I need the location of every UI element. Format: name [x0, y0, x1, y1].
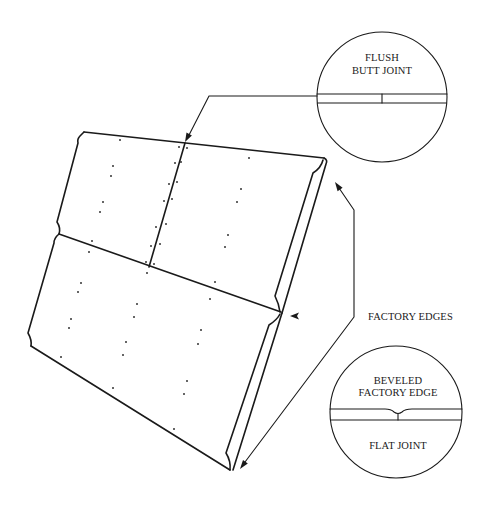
horizontal-panel-joint [59, 234, 281, 312]
nail-mark [186, 380, 188, 382]
nail-mark [200, 329, 202, 331]
factory-edges-label: FACTORY EDGES [368, 311, 453, 322]
nail-mark [165, 223, 167, 225]
nail-mark [240, 188, 242, 190]
lower-panel-left-edge [28, 234, 59, 346]
upper-panel-top-edge [84, 132, 324, 158]
nail-mark [180, 161, 182, 163]
nail-mark [91, 240, 93, 242]
nail-mark [163, 200, 165, 202]
flush-butt-seam [149, 143, 185, 267]
nail-mark [122, 354, 124, 356]
nail-mark [88, 251, 90, 253]
nail-mark [80, 282, 82, 284]
arrowhead-icon [335, 182, 343, 191]
nail-mark [178, 146, 180, 148]
nail-mark [136, 303, 138, 305]
nail-marks [60, 139, 250, 430]
nail-mark [209, 298, 211, 300]
arrowhead-left-icon [290, 313, 299, 320]
nail-mark [102, 201, 104, 203]
nail-mark [110, 175, 112, 177]
nail-mark [183, 393, 185, 395]
lower-panel-thickness-outer [233, 313, 282, 470]
factory-edges-callout: FACTORY EDGES [240, 182, 453, 469]
plywood-joint-diagram: FLUSH BUTT JOINT FACTORY EDGES BEVELED F… [0, 0, 486, 505]
nail-mark [99, 211, 101, 213]
nail-mark [60, 356, 62, 358]
nail-mark [197, 343, 199, 345]
lower-panel-bottom-edge [31, 346, 230, 470]
nail-mark [68, 327, 70, 329]
nail-mark [159, 243, 161, 245]
beveled-label: BEVELED [374, 375, 423, 386]
nail-mark [173, 428, 175, 430]
nail-mark [125, 341, 127, 343]
upper-panel-thickness-inner [275, 160, 323, 312]
nail-mark [112, 165, 114, 167]
nail-mark [153, 263, 155, 265]
panel-assembly [28, 132, 327, 470]
nail-mark [236, 201, 238, 203]
lower-panel [28, 234, 282, 470]
nail-mark [186, 147, 188, 149]
factory-edges-bracket-line [245, 188, 354, 462]
flat-joint-label: FLAT JOINT [369, 440, 427, 451]
nail-mark [119, 139, 121, 141]
flush-label: FLUSH [365, 52, 399, 63]
butt-joint-label: BUTT JOINT [352, 65, 412, 76]
nail-mark [176, 181, 178, 183]
nail-mark [150, 245, 152, 247]
nail-mark [171, 198, 173, 200]
factory-edge-label: FACTORY EDGE [359, 387, 438, 398]
nail-mark [77, 291, 79, 293]
nail-mark [145, 261, 147, 263]
nail-mark [214, 281, 216, 283]
nail-mark [168, 183, 170, 185]
nail-mark [133, 316, 135, 318]
nail-mark [155, 226, 157, 228]
nail-mark [227, 234, 229, 236]
arrowhead-icon [240, 460, 248, 469]
nail-mark [174, 162, 176, 164]
upper-panel-thickness-outer [282, 158, 327, 313]
butt-joint-leader-line [188, 96, 317, 137]
nail-mark [70, 318, 72, 320]
beveled-band-top [330, 409, 462, 414]
nail-mark [146, 272, 148, 274]
upper-panel [57, 132, 327, 313]
lower-panel-thickness-inner [226, 314, 280, 470]
nail-mark [112, 387, 114, 389]
flush-butt-joint-callout: FLUSH BUTT JOINT [185, 32, 447, 162]
beveled-edge-callout: BEVELED FACTORY EDGE FLAT JOINT [330, 346, 462, 478]
detail-circle-bottom [330, 346, 462, 478]
arrowhead-icon [185, 133, 192, 142]
upper-panel-left-edge [57, 132, 84, 234]
nail-mark [224, 246, 226, 248]
nail-mark [248, 157, 250, 159]
